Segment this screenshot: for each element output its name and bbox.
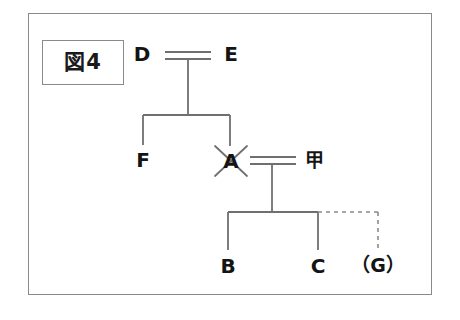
person-node-a: A xyxy=(220,151,242,171)
person-node-kou: 甲 xyxy=(303,151,325,170)
person-node-b: B xyxy=(217,256,239,276)
figure-label-box: 図4 xyxy=(42,40,124,85)
person-node-d: D xyxy=(131,44,153,64)
person-node-f: F xyxy=(132,150,154,170)
person-node-e: E xyxy=(220,44,242,64)
person-node-c: C xyxy=(307,256,329,276)
figure-label-text: 図4 xyxy=(64,52,102,73)
person-node-g: （G） xyxy=(347,256,409,275)
diagram-canvas: 図4 D E F A 甲 B C （G） xyxy=(0,0,460,320)
